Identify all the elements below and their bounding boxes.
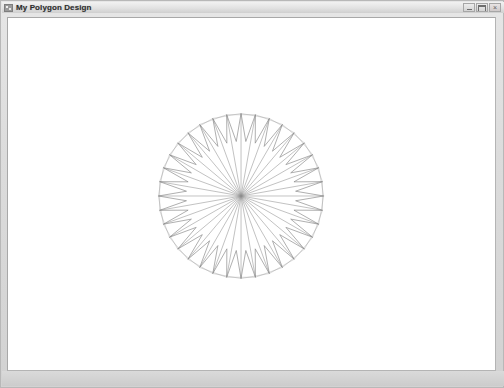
application-window: My Polygon Design <box>0 0 504 388</box>
maximize-button[interactable] <box>476 3 488 12</box>
window-title: My Polygon Design <box>16 3 92 13</box>
client-area <box>7 17 496 371</box>
title-bar[interactable]: My Polygon Design <box>2 2 504 13</box>
minimize-icon <box>467 9 472 10</box>
close-icon <box>492 5 498 11</box>
close-button[interactable] <box>489 3 501 12</box>
application-icon <box>4 4 13 12</box>
polygon-design-canvas <box>8 18 495 370</box>
maximize-icon <box>478 5 486 12</box>
window-frame-bottom <box>2 371 504 386</box>
minimize-button[interactable] <box>463 3 475 12</box>
window-controls <box>463 3 501 12</box>
